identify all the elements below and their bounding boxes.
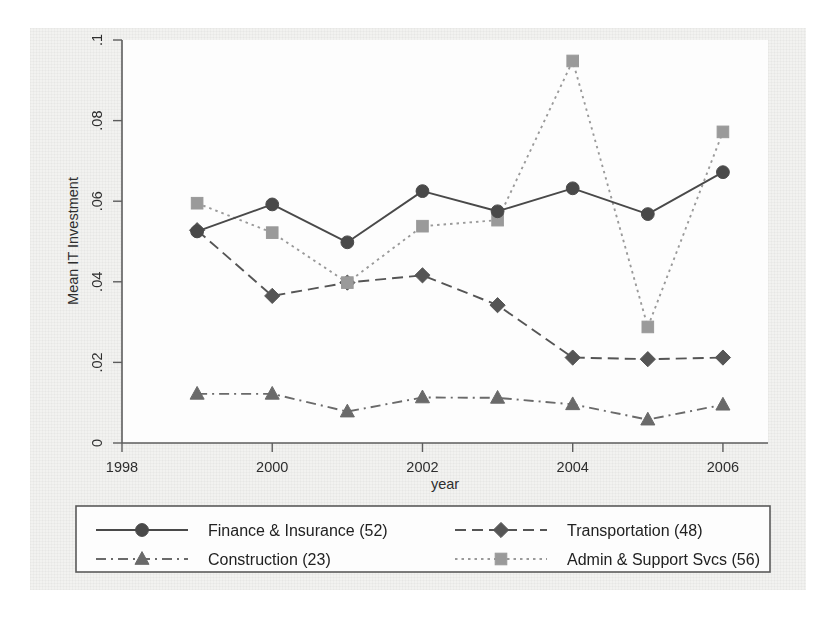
- y-tick-label: .1: [89, 34, 105, 46]
- data-point-marker-square: [191, 197, 203, 209]
- data-point-marker-diamond: [715, 350, 730, 365]
- y-tick-label: .06: [89, 191, 105, 211]
- y-axis-ticks: [113, 40, 122, 443]
- data-point-marker-triangle: [491, 390, 505, 403]
- x-axis-title: year: [431, 476, 459, 492]
- series-triangle: [190, 386, 730, 425]
- series-path: [197, 61, 723, 327]
- data-point-marker-triangle: [415, 390, 429, 403]
- data-point-marker-circle: [136, 524, 149, 537]
- data-point-marker-circle: [191, 225, 204, 238]
- chart-page: 0.02.04.06.08.1 19982000200220042006 Mea…: [0, 0, 830, 628]
- data-series: [190, 55, 731, 425]
- legend-label: Transportation (48): [567, 522, 702, 539]
- data-point-marker-diamond: [490, 298, 505, 313]
- data-point-marker-diamond: [565, 350, 580, 365]
- data-point-marker-diamond: [415, 268, 430, 283]
- data-point-marker-circle: [416, 185, 429, 198]
- data-point-marker-circle: [566, 182, 579, 195]
- x-tick-label: 1998: [106, 459, 138, 475]
- axes: [113, 40, 768, 452]
- y-tick-label: .04: [89, 272, 105, 292]
- x-tick-label: 2004: [557, 459, 589, 475]
- data-point-marker-square: [717, 126, 729, 138]
- line-chart: 0.02.04.06.08.1 19982000200220042006 Mea…: [0, 0, 830, 628]
- data-point-marker-triangle: [265, 386, 279, 399]
- legend-label: Finance & Insurance (52): [208, 522, 388, 539]
- data-point-marker-square: [342, 277, 354, 289]
- data-point-marker-square: [266, 227, 278, 239]
- y-axis-tick-labels: 0.02.04.06.08.1: [89, 34, 105, 447]
- data-point-marker-square: [495, 553, 507, 565]
- y-tick-label: .02: [89, 352, 105, 372]
- data-point-marker-triangle: [641, 412, 655, 425]
- y-tick-label: 0: [89, 439, 105, 447]
- data-point-marker-circle: [717, 166, 730, 179]
- y-axis-title: Mean IT Investment: [65, 177, 81, 305]
- legend-label: Admin & Support Svcs (56): [567, 551, 760, 568]
- data-point-marker-triangle: [190, 386, 204, 399]
- data-point-marker-triangle: [716, 397, 730, 410]
- data-point-marker-circle: [641, 208, 654, 221]
- y-tick-label: .08: [89, 111, 105, 131]
- data-point-marker-diamond: [640, 352, 655, 367]
- data-point-marker-circle: [266, 198, 279, 211]
- x-tick-label: 2000: [256, 459, 288, 475]
- legend-label: Construction (23): [208, 551, 331, 568]
- x-tick-label: 2002: [406, 459, 438, 475]
- data-point-marker-square: [567, 55, 579, 67]
- data-point-marker-square: [642, 321, 654, 333]
- x-axis-ticks: [122, 443, 723, 452]
- series-diamond: [190, 223, 731, 367]
- data-point-marker-circle: [341, 236, 354, 249]
- chart-legend: Finance & Insurance (52)Transportation (…: [76, 506, 770, 572]
- x-tick-label: 2006: [707, 459, 739, 475]
- data-point-marker-circle: [491, 205, 504, 218]
- x-axis-tick-labels: 19982000200220042006: [106, 459, 739, 475]
- data-point-marker-square: [417, 220, 429, 232]
